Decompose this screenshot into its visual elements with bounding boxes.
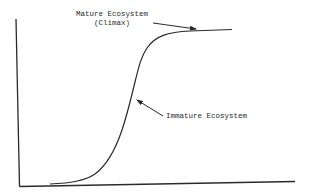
x-axis xyxy=(20,182,296,187)
mature-arrow xyxy=(153,23,196,29)
mature-label-line2: (Climax) xyxy=(76,19,148,28)
mature-label-line1: Mature Ecosystem xyxy=(76,10,148,18)
succession-diagram xyxy=(0,0,310,194)
immature-ecosystem-label: Immature Ecosystem xyxy=(166,112,247,121)
y-axis xyxy=(16,19,20,187)
succession-curve xyxy=(50,30,232,185)
mature-ecosystem-label: Mature Ecosystem (Climax) xyxy=(76,10,148,28)
immature-arrow xyxy=(137,100,163,116)
